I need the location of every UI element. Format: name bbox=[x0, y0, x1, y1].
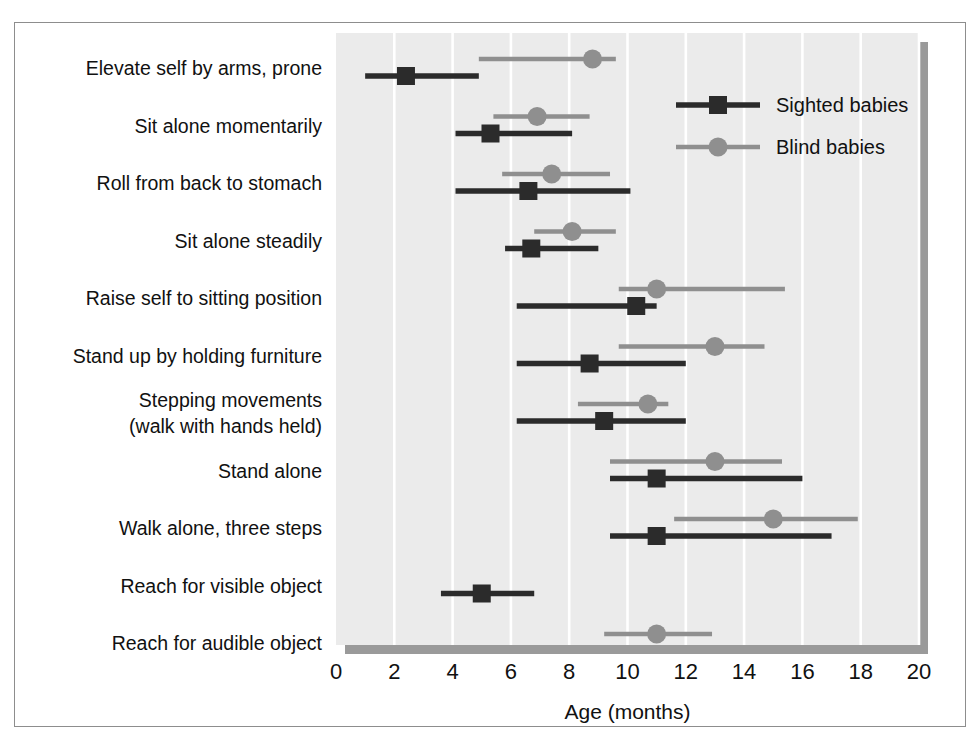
x-tick-label: 10 bbox=[615, 659, 639, 684]
dot-plot-chart: Elevate self by arms, proneSit alone mom… bbox=[0, 0, 980, 756]
x-axis: 02468101214161820Age (months) bbox=[330, 659, 931, 723]
blind-marker bbox=[647, 625, 666, 644]
blind-marker bbox=[542, 165, 561, 184]
x-axis-title: Age (months) bbox=[564, 700, 690, 723]
blind-marker bbox=[583, 50, 602, 69]
sighted-marker bbox=[581, 355, 599, 373]
sighted-marker bbox=[481, 125, 499, 143]
blind-marker bbox=[764, 510, 783, 529]
plot-panel bbox=[336, 33, 928, 654]
legend-label: Sighted babies bbox=[776, 94, 908, 116]
sighted-marker bbox=[397, 67, 415, 85]
blind-marker bbox=[705, 452, 724, 471]
category-label: Sit alone momentarily bbox=[135, 115, 323, 137]
x-tick-label: 20 bbox=[907, 659, 931, 684]
blind-marker bbox=[705, 337, 724, 356]
category-label: Stand alone bbox=[218, 460, 322, 482]
blind-marker bbox=[563, 222, 582, 241]
sighted-marker bbox=[648, 527, 666, 545]
category-label: Sit alone steadily bbox=[175, 230, 323, 252]
category-label: (walk with hands held) bbox=[129, 415, 322, 437]
sighted-marker bbox=[522, 240, 540, 258]
x-tick-label: 14 bbox=[732, 659, 756, 684]
category-label: Stand up by holding furniture bbox=[73, 345, 322, 367]
blind-marker bbox=[638, 395, 657, 414]
category-label: Roll from back to stomach bbox=[97, 172, 322, 194]
category-label: Stepping movements bbox=[139, 389, 322, 411]
legend-square-marker bbox=[709, 96, 727, 114]
blind-marker bbox=[528, 107, 547, 126]
x-tick-label: 2 bbox=[388, 659, 400, 684]
legend-circle-marker bbox=[709, 138, 728, 157]
x-tick-label: 6 bbox=[505, 659, 517, 684]
category-label: Walk alone, three steps bbox=[119, 517, 322, 539]
category-labels: Elevate self by arms, proneSit alone mom… bbox=[73, 57, 323, 654]
category-label: Reach for audible object bbox=[112, 632, 323, 654]
sighted-marker bbox=[595, 412, 613, 430]
sighted-marker bbox=[519, 182, 537, 200]
category-label: Reach for visible object bbox=[120, 575, 322, 597]
x-tick-label: 4 bbox=[446, 659, 458, 684]
sighted-marker bbox=[627, 297, 645, 315]
category-label: Raise self to sitting position bbox=[86, 287, 322, 309]
sighted-marker bbox=[648, 470, 666, 488]
x-tick-label: 12 bbox=[674, 659, 698, 684]
x-tick-label: 16 bbox=[790, 659, 814, 684]
legend-label: Blind babies bbox=[776, 136, 885, 158]
x-tick-label: 18 bbox=[848, 659, 872, 684]
x-tick-label: 8 bbox=[563, 659, 575, 684]
sighted-marker bbox=[473, 585, 491, 603]
x-tick-label: 0 bbox=[330, 659, 342, 684]
blind-marker bbox=[647, 280, 666, 299]
category-label: Elevate self by arms, prone bbox=[86, 57, 322, 79]
